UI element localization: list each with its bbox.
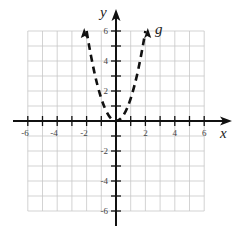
- x-tick-label: -4: [50, 128, 58, 138]
- x-tick-label: 4: [173, 128, 178, 138]
- x-tick-label: -2: [80, 128, 88, 138]
- y-tick-label: -4: [101, 176, 109, 186]
- y-axis: [112, 9, 121, 226]
- x-axis: [13, 117, 232, 126]
- x-axis-label: x: [219, 125, 227, 141]
- y-tick-label: 2: [104, 86, 109, 96]
- y-tick-label: 4: [104, 56, 109, 66]
- y-tick-label: 6: [104, 26, 109, 36]
- x-tick-label: 2: [143, 128, 148, 138]
- curve-label-g: g: [155, 21, 163, 37]
- x-tick-label: -6: [21, 128, 29, 138]
- x-tick-label: 6: [202, 128, 207, 138]
- y-tick-label: -6: [101, 206, 109, 216]
- coordinate-plane: -6 -4 -2 2 4 6 6 4 2 -2 -4 -6 x y g: [0, 0, 241, 226]
- y-tick-label: -2: [101, 146, 109, 156]
- y-axis-label: y: [98, 4, 107, 20]
